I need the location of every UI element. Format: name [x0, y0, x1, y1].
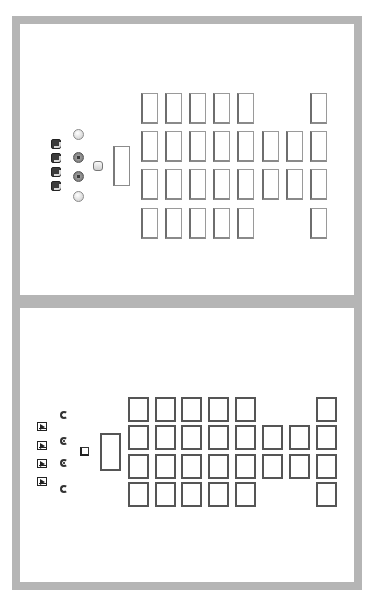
- checkbox-arrow-icon[interactable]: [51, 181, 61, 191]
- radio-button[interactable]: [60, 437, 68, 445]
- seat-box[interactable]: [208, 425, 229, 450]
- seat-box[interactable]: [181, 482, 202, 507]
- seat-box[interactable]: [181, 397, 202, 422]
- seat-box[interactable]: [155, 397, 176, 422]
- seat-box[interactable]: [262, 169, 279, 200]
- seat-box[interactable]: [289, 425, 310, 450]
- seat-box[interactable]: [310, 208, 327, 239]
- seat-box[interactable]: [189, 131, 206, 162]
- seat-box[interactable]: [165, 169, 182, 200]
- seat-box[interactable]: [141, 169, 158, 200]
- seat-box[interactable]: [128, 454, 149, 479]
- checkbox-arrow-icon[interactable]: [51, 167, 61, 177]
- small-square-icon[interactable]: [80, 447, 89, 456]
- seat-box[interactable]: [189, 93, 206, 124]
- seat-box[interactable]: [128, 425, 149, 450]
- radio-button[interactable]: [73, 152, 84, 163]
- seat-box[interactable]: [310, 131, 327, 162]
- seat-box[interactable]: [165, 208, 182, 239]
- checkbox-arrow-icon[interactable]: [51, 153, 61, 163]
- seat-box[interactable]: [316, 454, 337, 479]
- seat-box[interactable]: [189, 169, 206, 200]
- seat-box[interactable]: [165, 93, 182, 124]
- seat-box[interactable]: [141, 131, 158, 162]
- seat-box[interactable]: [316, 397, 337, 422]
- seat-box[interactable]: [189, 208, 206, 239]
- checkbox-arrow-icon[interactable]: [37, 477, 47, 486]
- seat-box[interactable]: [155, 425, 176, 450]
- seat-box[interactable]: [213, 169, 230, 200]
- lectern-box[interactable]: [113, 146, 130, 186]
- seat-box[interactable]: [208, 454, 229, 479]
- seat-box[interactable]: [316, 425, 337, 450]
- seat-box[interactable]: [237, 208, 254, 239]
- radio-button[interactable]: [73, 129, 84, 140]
- seat-box[interactable]: [237, 169, 254, 200]
- radio-button[interactable]: [73, 171, 84, 182]
- seat-box[interactable]: [286, 169, 303, 200]
- small-square-icon[interactable]: [93, 161, 103, 171]
- seat-box[interactable]: [155, 454, 176, 479]
- seat-box[interactable]: [141, 93, 158, 124]
- radio-button[interactable]: [60, 485, 68, 493]
- seat-box[interactable]: [181, 454, 202, 479]
- seat-box[interactable]: [262, 425, 283, 450]
- seat-box[interactable]: [316, 482, 337, 507]
- seat-box[interactable]: [213, 131, 230, 162]
- seat-box[interactable]: [289, 454, 310, 479]
- checkbox-arrow-icon[interactable]: [37, 441, 47, 450]
- seat-box[interactable]: [141, 208, 158, 239]
- seat-box[interactable]: [235, 454, 256, 479]
- seat-box[interactable]: [165, 131, 182, 162]
- radio-button[interactable]: [73, 191, 84, 202]
- seat-box[interactable]: [208, 397, 229, 422]
- lectern-box[interactable]: [100, 433, 121, 471]
- seat-box[interactable]: [262, 131, 279, 162]
- seat-box[interactable]: [181, 425, 202, 450]
- seat-box[interactable]: [235, 482, 256, 507]
- radio-button[interactable]: [60, 459, 68, 467]
- seat-box[interactable]: [128, 397, 149, 422]
- seat-box[interactable]: [235, 425, 256, 450]
- seat-box[interactable]: [310, 169, 327, 200]
- seat-box[interactable]: [235, 397, 256, 422]
- seat-box[interactable]: [237, 131, 254, 162]
- seat-box[interactable]: [286, 131, 303, 162]
- checkbox-arrow-icon[interactable]: [37, 459, 47, 468]
- seat-box[interactable]: [155, 482, 176, 507]
- seat-box[interactable]: [208, 482, 229, 507]
- checkbox-arrow-icon[interactable]: [37, 422, 47, 431]
- seat-box[interactable]: [213, 208, 230, 239]
- seat-box[interactable]: [262, 454, 283, 479]
- checkbox-arrow-icon[interactable]: [51, 139, 61, 149]
- seat-box[interactable]: [128, 482, 149, 507]
- seat-box[interactable]: [237, 93, 254, 124]
- seat-box[interactable]: [213, 93, 230, 124]
- radio-button[interactable]: [60, 411, 68, 419]
- seat-box[interactable]: [310, 93, 327, 124]
